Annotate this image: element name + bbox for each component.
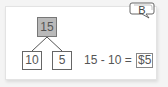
equation: 15 - 10 = $5 — [84, 53, 153, 68]
part-box-left: 10 — [22, 51, 42, 70]
whole-box: 15 — [37, 17, 57, 37]
number-bond-connectors — [0, 0, 168, 87]
part-box-right: 5 — [52, 51, 72, 70]
equation-answer-box: $5 — [136, 53, 153, 68]
equation-expression: 15 - 10 = — [84, 53, 132, 67]
